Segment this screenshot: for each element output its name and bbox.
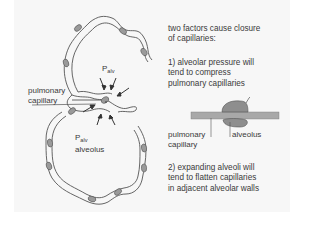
label-line: capillary	[168, 140, 205, 150]
inset-alveolus-top	[222, 101, 248, 112]
label-line: capillary	[28, 96, 65, 106]
text-line: 1) alveolar pressure will	[168, 58, 254, 68]
palv-label-top: Palv	[102, 64, 115, 77]
pulmonary-capillary-label: pulmonary capillary	[28, 86, 65, 105]
inset-alveolus-label: alveolus	[232, 130, 261, 140]
text-line: tend to flatten capillaries	[168, 173, 259, 183]
inset-capillary-bar	[191, 112, 279, 119]
lower-alveolar-wall	[46, 112, 146, 204]
inset-alveolus-bottom	[223, 119, 247, 128]
septum-nuclei	[67, 96, 110, 116]
palv-label-bottom: Palv	[75, 133, 88, 146]
capillary-point	[105, 101, 107, 103]
text-line: in adjacent alveolar walls	[168, 184, 259, 194]
text-line: pulmonary capillaries	[168, 79, 254, 89]
text-line: two factors cause closure	[168, 24, 260, 34]
factor1-text: 1) alveolar pressure will tend to compre…	[168, 58, 254, 89]
label-line: pulmonary	[28, 86, 65, 96]
text-line: 2) expanding alveoli will	[168, 163, 259, 173]
text-line: of capillaries:	[168, 34, 260, 44]
label-line: pulmonary	[168, 130, 205, 140]
inset-pulmonary-capillary-label: pulmonary capillary	[168, 130, 205, 149]
text-line: tend to compress	[168, 68, 254, 78]
inset-alveolus-tip	[246, 97, 250, 103]
intro-text: two factors cause closure of capillaries…	[168, 24, 260, 45]
alveolus-label: alveolus	[75, 145, 104, 155]
factor2-text: 2) expanding alveoli will tend to flatte…	[168, 163, 259, 194]
upper-wall-nuclei	[62, 23, 148, 67]
